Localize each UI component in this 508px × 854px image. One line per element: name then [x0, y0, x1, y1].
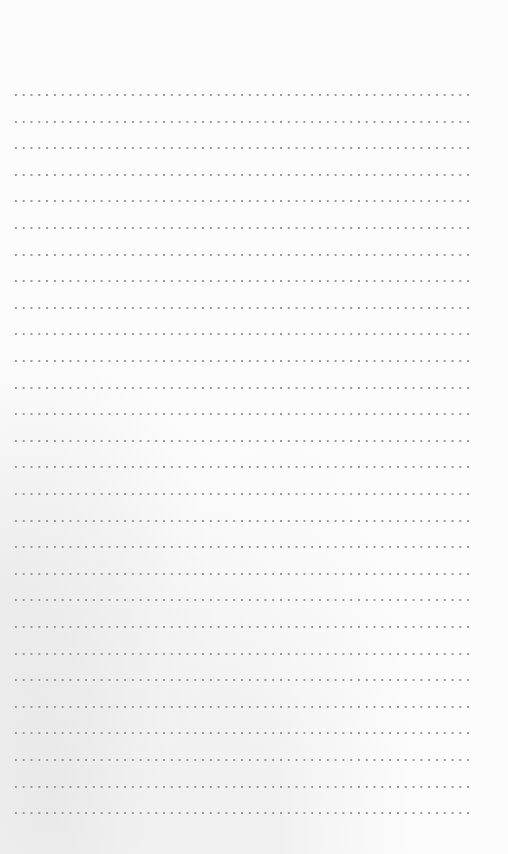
dotted-line: [12, 254, 474, 256]
dotted-line: [12, 280, 474, 282]
dotted-line: [12, 732, 474, 734]
dotted-line: [12, 466, 474, 468]
dotted-line: [12, 706, 474, 708]
dotted-line: [12, 626, 474, 628]
dotted-line: [12, 174, 474, 176]
dotted-line: [12, 786, 474, 788]
dotted-line: [12, 94, 474, 96]
dotted-line: [12, 307, 474, 309]
dotted-line: [12, 653, 474, 655]
dotted-line: [12, 546, 474, 548]
dotted-lines-container: [0, 0, 508, 854]
dotted-line: [12, 679, 474, 681]
dotted-line: [12, 121, 474, 123]
dotted-line: [12, 520, 474, 522]
dotted-line: [12, 413, 474, 415]
dotted-line: [12, 360, 474, 362]
dotted-line: [12, 147, 474, 149]
dotted-line: [12, 333, 474, 335]
dotted-line: [12, 493, 474, 495]
dotted-line: [12, 759, 474, 761]
dotted-line: [12, 812, 474, 814]
lined-paper-page: [0, 0, 508, 854]
dotted-line: [12, 200, 474, 202]
dotted-line: [12, 440, 474, 442]
dotted-line: [12, 227, 474, 229]
dotted-line: [12, 573, 474, 575]
dotted-line: [12, 599, 474, 601]
dotted-line: [12, 387, 474, 389]
